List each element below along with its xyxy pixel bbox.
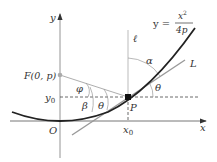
angle-beta: β xyxy=(81,100,88,111)
point-P-label: P xyxy=(129,102,137,113)
y-axis-label: y xyxy=(49,12,56,23)
svg-text:x2: x2 xyxy=(178,9,187,21)
focal-line xyxy=(60,75,128,97)
arc-beta xyxy=(90,87,93,112)
svg-text:y =: y = xyxy=(152,18,170,29)
focus-label: F(0, p) xyxy=(23,70,56,81)
arc-theta-left xyxy=(104,89,108,110)
vertical-line-label: ℓ xyxy=(133,33,137,44)
angle-phi: φ xyxy=(76,83,83,94)
angle-theta-right: θ xyxy=(155,82,161,93)
x-axis-label: x xyxy=(200,122,206,133)
arc-phi xyxy=(86,83,89,97)
x0-label: x0 xyxy=(123,124,133,137)
parabola-diagram: y x O F(0, p) P y0 x0 ℓ L α θ φ β θ y = … xyxy=(0,0,217,162)
angle-alpha: α xyxy=(146,55,153,66)
arc-theta-right xyxy=(150,84,153,97)
angle-theta-left: θ xyxy=(98,100,104,111)
focus-point xyxy=(58,73,63,78)
y0-label: y0 xyxy=(44,92,55,105)
tangent-line-label: L xyxy=(189,58,197,69)
svg-text:4p: 4p xyxy=(175,25,188,35)
parabola-equation: y = x2 4p xyxy=(152,9,193,35)
origin-label: O xyxy=(49,125,57,136)
point-P xyxy=(125,94,131,100)
arc-alpha xyxy=(128,58,160,76)
